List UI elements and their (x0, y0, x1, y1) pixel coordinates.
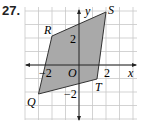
tick-label-x-neg: −2 (39, 66, 52, 81)
vertex-label-S: S (108, 3, 114, 18)
y-axis-arrow-down-icon (77, 116, 81, 121)
tick-label-y-pos: 2 (70, 32, 76, 47)
tick-label-x-pos: 2 (104, 66, 110, 81)
vertex-label-R: R (44, 23, 51, 38)
y-axis-label: y (85, 4, 90, 19)
x-axis-arrow-left-icon (25, 63, 30, 67)
tick-label-y-neg: −2 (64, 87, 77, 102)
x-axis-label: x (128, 66, 133, 81)
origin-label: O (68, 66, 77, 81)
vertex-label-T: T (95, 80, 102, 95)
vertex-label-Q: Q (27, 95, 36, 110)
coordinate-plane (0, 0, 141, 127)
y-axis-arrow-up-icon (77, 9, 81, 14)
